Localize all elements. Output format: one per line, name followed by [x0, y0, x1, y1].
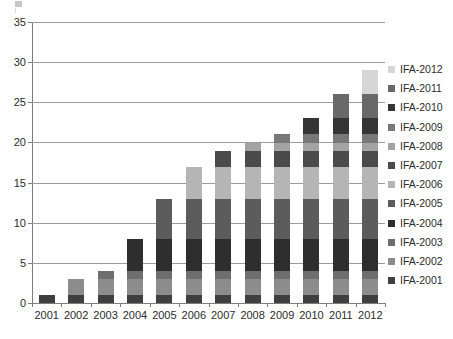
bar-segment-IFA-2004-2010: [303, 239, 319, 271]
bar-segment-IFA-2005-2005: [156, 199, 172, 239]
bar-segment-IFA-2011-2012: [362, 94, 378, 118]
legend-item-IFA-2007[interactable]: IFA-2007: [388, 156, 443, 175]
legend-item-IFA-2002[interactable]: IFA-2002: [388, 252, 443, 271]
bar-segment-IFA-2010-2011: [333, 118, 349, 134]
x-tick-label-2010: 2010: [299, 309, 323, 321]
legend-label: IFA-2001: [400, 275, 443, 286]
bar-segment-IFA-2003-2007: [215, 271, 231, 279]
legend-label: IFA-2011: [400, 83, 442, 94]
bar-2012: [362, 70, 378, 303]
bar-segment-IFA-2003-2010: [303, 271, 319, 279]
bar-segment-IFA-2001-2009: [274, 295, 290, 303]
legend-item-IFA-2003[interactable]: IFA-2003: [388, 233, 443, 252]
bar-segment-IFA-2008-2008: [245, 143, 261, 151]
legend-swatch-icon: [388, 104, 395, 111]
bar-segment-IFA-2006-2011: [333, 167, 349, 199]
bar-segment-IFA-2008-2010: [303, 143, 319, 151]
y-tick-label: 25: [14, 97, 26, 108]
bar-segment-IFA-2004-2004: [127, 239, 143, 271]
legend-item-IFA-2005[interactable]: IFA-2005: [388, 194, 443, 213]
legend-swatch-icon: [388, 85, 395, 92]
x-tick-mark: [356, 303, 357, 307]
legend-item-IFA-2009[interactable]: IFA-2009: [388, 118, 443, 137]
bar-segment-IFA-2005-2006: [186, 199, 202, 239]
x-tick-label-2011: 2011: [329, 309, 353, 321]
bar-2005: [156, 199, 172, 303]
legend-item-IFA-2006[interactable]: IFA-2006: [388, 175, 443, 194]
bar-segment-IFA-2003-2005: [156, 271, 172, 279]
plot-area: 05101520253035: [32, 22, 385, 303]
legend-swatch-icon: [388, 143, 395, 150]
bar-segment-IFA-2007-2009: [274, 151, 290, 167]
legend-item-IFA-2004[interactable]: IFA-2004: [388, 214, 443, 233]
bar-segment-IFA-2004-2005: [156, 239, 172, 271]
bar-segment-IFA-2006-2007: [215, 167, 231, 199]
legend-swatch-icon: [388, 66, 395, 73]
x-tick-label-2001: 2001: [34, 309, 58, 321]
x-tick-label-2005: 2005: [152, 309, 176, 321]
bar-segment-IFA-2001-2012: [362, 295, 378, 303]
x-tick-mark: [238, 303, 239, 307]
bar-2002: [68, 279, 84, 303]
bar-segment-IFA-2003-2009: [274, 271, 290, 279]
x-tick-mark: [32, 303, 33, 307]
y-tick-label: 20: [14, 137, 26, 148]
bar-segment-IFA-2001-2001: [39, 295, 55, 303]
bar-segment-IFA-2006-2009: [274, 167, 290, 199]
legend-swatch-icon: [388, 220, 395, 227]
bar-segment-IFA-2008-2009: [274, 143, 290, 151]
bar-segment-IFA-2006-2012: [362, 167, 378, 199]
legend-label: IFA-2006: [400, 179, 443, 190]
bar-segment-IFA-2004-2007: [215, 239, 231, 271]
bar-segment-IFA-2001-2002: [68, 295, 84, 303]
x-tick-mark: [150, 303, 151, 307]
legend-item-IFA-2008[interactable]: IFA-2008: [388, 137, 443, 156]
y-tick-mark: [28, 223, 32, 224]
bar-segment-IFA-2006-2008: [245, 167, 261, 199]
x-tick-label-2009: 2009: [270, 309, 294, 321]
bar-segment-IFA-2004-2009: [274, 239, 290, 271]
legend-item-IFA-2010[interactable]: IFA-2010: [388, 98, 443, 117]
bar-segment-IFA-2004-2008: [245, 239, 261, 271]
bar-segment-IFA-2004-2011: [333, 239, 349, 271]
bar-segment-IFA-2002-2004: [127, 279, 143, 295]
stacked-bar-chart: 05101520253035 2001200220032004200520062…: [0, 0, 453, 339]
bar-segment-IFA-2003-2004: [127, 271, 143, 279]
bar-segment-IFA-2003-2008: [245, 271, 261, 279]
legend-label: IFA-2002: [400, 256, 443, 267]
legend-label: IFA-2009: [400, 122, 443, 133]
bar-segment-IFA-2009-2012: [362, 134, 378, 142]
legend-item-IFA-2012[interactable]: IFA-2012: [388, 60, 443, 79]
legend-item-IFA-2001[interactable]: IFA-2001: [388, 271, 443, 290]
page-artifact: [15, 1, 22, 7]
bar-segment-IFA-2007-2010: [303, 151, 319, 167]
bar-segment-IFA-2001-2006: [186, 295, 202, 303]
x-tick-label-2008: 2008: [240, 309, 264, 321]
legend-item-IFA-2011[interactable]: IFA-2011: [388, 79, 443, 98]
y-tick-mark: [28, 142, 32, 143]
chart-legend: IFA-2012IFA-2011IFA-2010IFA-2009IFA-2008…: [388, 60, 443, 290]
y-tick-mark: [28, 102, 32, 103]
bar-segment-IFA-2001-2007: [215, 295, 231, 303]
legend-swatch-icon: [388, 124, 395, 131]
bar-segment-IFA-2005-2008: [245, 199, 261, 239]
bar-segment-IFA-2001-2005: [156, 295, 172, 303]
x-tick-label-2012: 2012: [358, 309, 382, 321]
x-tick-mark: [179, 303, 180, 307]
bar-2007: [215, 151, 231, 303]
x-tick-label-2007: 2007: [211, 309, 235, 321]
bar-2011: [333, 94, 349, 303]
bar-segment-IFA-2001-2008: [245, 295, 261, 303]
bar-segment-IFA-2009-2010: [303, 134, 319, 142]
x-tick-mark: [120, 303, 121, 307]
y-tick-label: 5: [20, 257, 26, 268]
bar-segment-IFA-2004-2006: [186, 239, 202, 271]
gridline: [32, 62, 385, 63]
x-tick-mark: [61, 303, 62, 307]
legend-label: IFA-2005: [400, 198, 443, 209]
x-tick-mark: [297, 303, 298, 307]
x-tick-label-2002: 2002: [64, 309, 88, 321]
bar-segment-IFA-2003-2003: [98, 271, 114, 279]
bar-segment-IFA-2002-2010: [303, 279, 319, 295]
bar-segment-IFA-2010-2010: [303, 118, 319, 134]
